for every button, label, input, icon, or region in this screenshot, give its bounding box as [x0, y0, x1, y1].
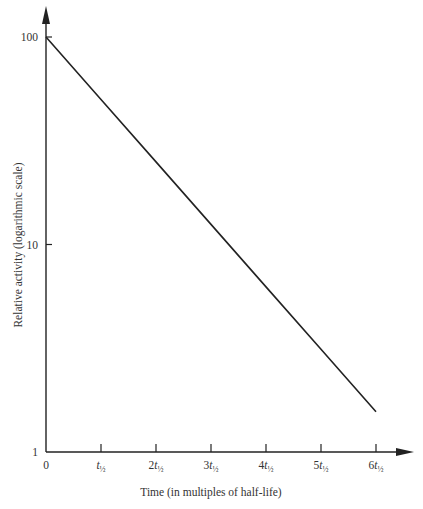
x-tick-label: 5t½: [314, 459, 329, 474]
y-tick-label: 1: [32, 446, 38, 458]
axes: [42, 6, 414, 456]
x-tick-label: 6t½: [369, 459, 384, 474]
y-axis-label: Relative activity (logarithmic scale): [12, 162, 25, 327]
y-tick-label: 100: [21, 31, 39, 43]
y-axis-arrow-icon: [42, 6, 50, 24]
decay-chart: 0t½2t½3t½4t½5t½6t½ 110100 Time (in multi…: [0, 0, 423, 509]
y-tick-label: 10: [27, 239, 39, 251]
x-tick-label: t½: [96, 459, 105, 474]
x-tick-label: 2t½: [149, 459, 164, 474]
x-axis-label: Time (in multiples of half-life): [140, 486, 282, 499]
x-axis-arrow-icon: [396, 448, 414, 456]
data-line: [46, 37, 376, 412]
x-tick-labels: 0t½2t½3t½4t½5t½6t½: [43, 459, 383, 474]
x-tick-label: 4t½: [259, 459, 274, 474]
decay-line: [46, 37, 376, 412]
x-tick-label: 0: [43, 459, 49, 471]
tick-marks: [46, 37, 376, 452]
x-tick-label: 3t½: [204, 459, 219, 474]
